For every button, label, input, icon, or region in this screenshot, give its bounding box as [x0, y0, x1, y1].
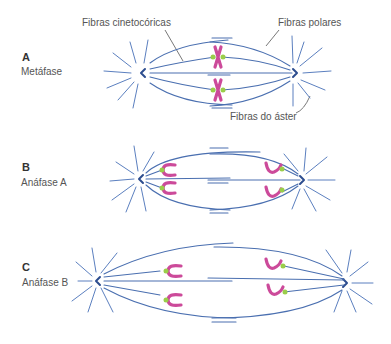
panel-a-stage-label: Metáfase	[21, 66, 63, 77]
daughter-chromosome-b-left-upper	[160, 165, 176, 176]
panel-c: C Anáfase B	[22, 243, 373, 322]
daughter-chromosome-c-left-upper	[164, 266, 182, 277]
panel-c-letter: C	[22, 261, 30, 273]
centrosome-left-b-icon	[139, 175, 143, 183]
panel-b-stage-label: Anáfase A	[21, 177, 67, 188]
centrosome-left-c-icon	[96, 277, 100, 285]
daughter-chromosome-b-right-upper	[266, 163, 285, 172]
spindle-fibers-c	[104, 243, 344, 322]
panel-a: A Metáfase Fibras cinetocóricas Fibras p…	[21, 17, 341, 122]
mitosis-diagram: A Metáfase Fibras cinetocóricas Fibras p…	[0, 0, 391, 344]
daughter-chromosome-c-left-lower	[164, 295, 182, 306]
aster-fibers-leader	[296, 96, 310, 113]
panel-c-stage-label: Anáfase B	[22, 277, 68, 288]
centrosome-right-a-icon	[293, 69, 297, 77]
panel-b: B Anáfase A	[21, 146, 335, 213]
chromosome-pair-lower-a	[211, 80, 226, 100]
polar-fibers-label: Fibras polares	[278, 17, 341, 28]
aster-right-a	[292, 36, 331, 106]
chromosome-pair-upper-a	[211, 47, 226, 67]
daughter-chromosome-c-right-upper	[266, 259, 286, 269]
centrosome-left-a-icon	[141, 69, 145, 77]
kinetochore-fibers-label: Fibras cinetocóricas	[82, 17, 171, 28]
aster-left-c	[72, 248, 117, 312]
polar-fibers-leader	[266, 30, 279, 46]
spindle-fibers-b	[146, 148, 300, 213]
panel-a-letter: A	[22, 51, 30, 63]
daughter-chromosome-c-right-lower	[268, 285, 288, 295]
daughter-chromosome-b-left-lower	[160, 183, 176, 194]
daughter-chromosome-b-right-lower	[266, 187, 285, 196]
kinetochore-fibers-leader	[165, 30, 183, 61]
centrosome-right-b-icon	[300, 176, 304, 184]
aster-right-c	[326, 250, 373, 312]
panel-b-letter: B	[22, 161, 30, 173]
aster-fibers-label: Fibras do áster	[230, 111, 297, 122]
